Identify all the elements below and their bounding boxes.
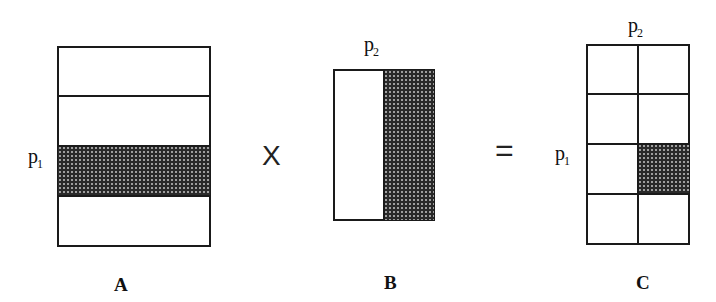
matrix-b-column-divider bbox=[383, 69, 385, 221]
matrix-c-column-label: p2 bbox=[628, 15, 644, 35]
matrix-b-shaded-column bbox=[384, 70, 434, 220]
matrix-a-caption: A bbox=[114, 275, 128, 294]
matrix-a-row-label: p1 bbox=[28, 146, 44, 166]
p1-label-subscript: 1 bbox=[564, 154, 570, 168]
matrix-c-row-divider-2 bbox=[586, 143, 690, 145]
matrix-c-shaded-cell bbox=[638, 144, 689, 194]
multiply-operator: X bbox=[262, 142, 281, 170]
p2-label-subscript: 2 bbox=[373, 45, 379, 59]
matrix-b-column-label: p2 bbox=[364, 34, 380, 54]
matrix-a-shaded-row bbox=[58, 146, 210, 196]
matrix-a-row-divider-1 bbox=[57, 95, 211, 97]
matrix-c-row-divider-3 bbox=[586, 193, 690, 195]
matrix-a-row-divider-2 bbox=[57, 145, 211, 147]
p2-label-subscript: 2 bbox=[637, 26, 643, 40]
matrix-c-row-label: p1 bbox=[555, 143, 571, 163]
matrix-c-row-divider-1 bbox=[586, 93, 690, 95]
matrix-c-caption: C bbox=[636, 273, 650, 292]
matrix-b-caption: B bbox=[384, 273, 397, 292]
matrix-a-row-divider-3 bbox=[57, 195, 211, 197]
equals-operator: = bbox=[495, 134, 514, 166]
p1-label-subscript: 1 bbox=[37, 157, 43, 171]
